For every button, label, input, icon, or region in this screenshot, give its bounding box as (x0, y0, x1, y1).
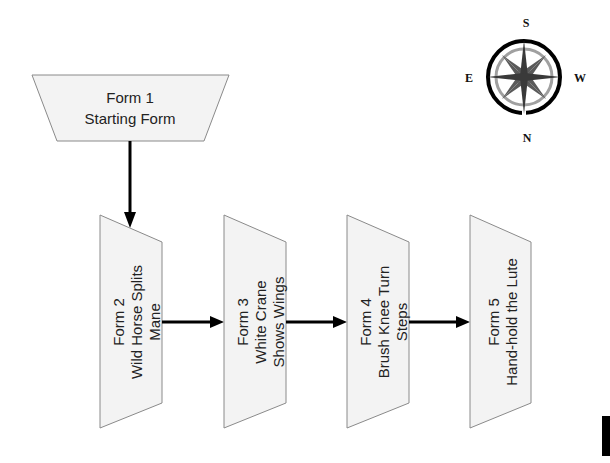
arrowhead-icon (333, 316, 347, 328)
form1-shape (32, 75, 229, 141)
node-form3[interactable]: Form 3 White Crane Shows Wings (224, 215, 287, 428)
form3-line3: Shows Wings (270, 277, 287, 368)
form5-line2: Hand-hold the Lute (503, 258, 520, 386)
form3-line2: White Crane (252, 280, 269, 363)
form4-line2: Brush Knee Turn (375, 266, 392, 379)
arrowhead-icon (456, 316, 470, 328)
compass-rose-icon: S N E W (465, 16, 586, 145)
edge-black-block (602, 416, 610, 456)
form3-title: Form 3 (234, 298, 251, 346)
form5-title: Form 5 (485, 298, 502, 346)
edge-form4-form5 (409, 316, 470, 328)
node-form1[interactable]: Form 1 Starting Form (32, 75, 229, 141)
edge-form1-form2 (124, 141, 136, 228)
node-form5[interactable]: Form 5 Hand-hold the Lute (470, 215, 531, 428)
compass-label-top: S (523, 16, 530, 30)
compass-label-left: E (465, 71, 473, 85)
compass-label-bottom: N (523, 131, 532, 145)
edge-form3-form4 (286, 316, 347, 328)
form2-title: Form 2 (110, 298, 127, 346)
form2-line3: Mane (146, 303, 163, 341)
compass-label-right: W (574, 71, 586, 85)
flowchart-canvas: Form 1 Starting Form Form 2 Wild Horse S… (0, 0, 610, 463)
node-form4[interactable]: Form 4 Brush Knee Turn Steps (347, 215, 410, 428)
form1-subtitle: Starting Form (85, 110, 176, 127)
form2-line2: Wild Horse Splits (128, 265, 145, 379)
form1-title: Form 1 (106, 89, 154, 106)
form4-line3: Steps (393, 303, 410, 341)
arrowhead-icon (210, 316, 224, 328)
form4-title: Form 4 (357, 298, 374, 346)
arrowhead-icon (124, 212, 136, 228)
node-form2[interactable]: Form 2 Wild Horse Splits Mane (100, 215, 163, 428)
edge-form2-form3 (162, 316, 224, 328)
